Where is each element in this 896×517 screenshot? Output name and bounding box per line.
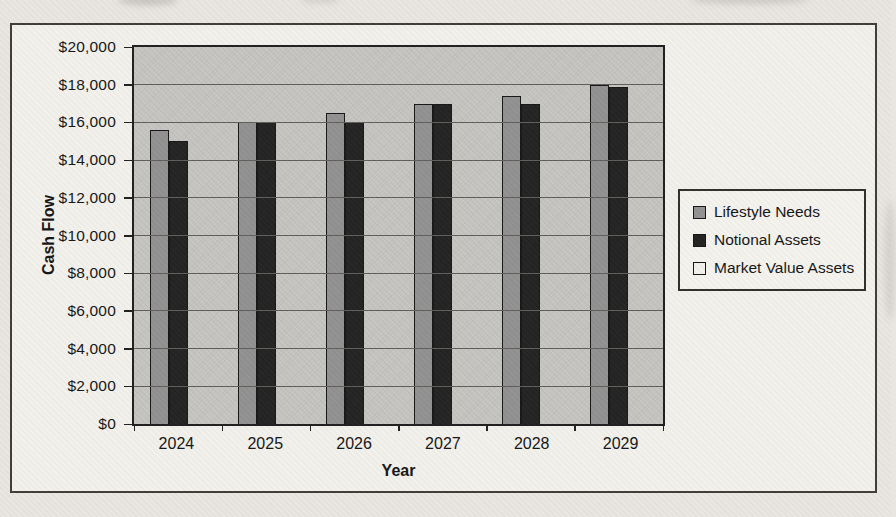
bar-lifestyle-needs — [150, 130, 169, 424]
y-tick-mark — [124, 235, 132, 237]
gridline — [134, 348, 663, 349]
legend-swatch — [693, 206, 706, 219]
y-tick-mark — [124, 84, 132, 86]
gridline — [134, 122, 663, 123]
bar-lifestyle-needs — [590, 85, 609, 424]
y-tick-label: $14,000 — [12, 151, 116, 169]
legend-entry-market-value-assets: Market Value Assets — [693, 259, 856, 277]
x-tick-label: 2025 — [221, 435, 310, 453]
scan-artifact — [690, 0, 810, 4]
x-tick-label: 2024 — [132, 435, 221, 453]
gridline — [134, 273, 663, 274]
gridline — [134, 197, 663, 198]
x-axis-title: Year — [132, 462, 665, 480]
bar-notional-assets — [169, 141, 188, 424]
scan-artifact — [884, 200, 896, 320]
y-tick-mark — [124, 47, 132, 49]
bar-notional-assets — [433, 104, 452, 424]
bar-notional-assets — [521, 104, 540, 424]
legend-swatch — [693, 262, 706, 275]
y-tick-label: $16,000 — [12, 113, 116, 131]
x-tick-label: 2028 — [487, 435, 576, 453]
gridline — [134, 310, 663, 311]
scan-artifact — [118, 0, 178, 5]
y-tick-mark — [124, 273, 132, 275]
y-tick-mark — [124, 386, 132, 388]
gridline — [134, 84, 663, 85]
plot-area — [132, 45, 665, 426]
x-tick-label: 2029 — [576, 435, 665, 453]
legend-entry-notional-assets: Notional Assets — [693, 231, 856, 249]
y-tick-mark — [124, 310, 132, 312]
x-tick-label: 2027 — [398, 435, 487, 453]
y-tick-label: $4,000 — [12, 340, 116, 358]
legend-swatch — [693, 234, 706, 247]
bar-lifestyle-needs — [502, 96, 521, 424]
y-tick-label: $0 — [12, 415, 116, 433]
y-tick-mark — [124, 348, 132, 350]
scan-artifact — [300, 0, 340, 3]
legend-label: Market Value Assets — [714, 259, 854, 277]
y-tick-label: $2,000 — [12, 377, 116, 395]
x-tick-mark — [574, 426, 576, 431]
y-tick-label: $8,000 — [12, 264, 116, 282]
y-tick-label: $20,000 — [12, 38, 116, 56]
chart-frame: Cash Flow 202420252026202720282029 Year … — [10, 23, 877, 493]
x-tick-mark — [222, 426, 224, 431]
y-tick-mark — [124, 160, 132, 162]
x-tick-mark — [398, 426, 400, 431]
legend-box: Lifestyle NeedsNotional AssetsMarket Val… — [678, 189, 866, 291]
x-tick-mark — [310, 426, 312, 431]
y-tick-label: $10,000 — [12, 227, 116, 245]
y-tick-mark — [124, 424, 132, 426]
legend-label: Notional Assets — [714, 231, 821, 249]
y-tick-mark — [124, 122, 132, 124]
x-tick-mark — [486, 426, 488, 431]
x-tick-label: 2026 — [310, 435, 399, 453]
legend-entry-lifestyle-needs: Lifestyle Needs — [693, 203, 856, 221]
x-axis-labels: 202420252026202720282029 — [132, 435, 665, 453]
gridline — [134, 235, 663, 236]
legend-label: Lifestyle Needs — [714, 203, 820, 221]
y-tick-label: $18,000 — [12, 76, 116, 94]
y-tick-label: $12,000 — [12, 189, 116, 207]
y-tick-label: $6,000 — [12, 302, 116, 320]
gridline — [134, 160, 663, 161]
bar-notional-assets — [609, 87, 628, 424]
bar-lifestyle-needs — [414, 104, 433, 424]
x-tick-mark — [134, 426, 136, 431]
gridline — [134, 386, 663, 387]
x-tick-mark — [663, 426, 665, 431]
y-tick-mark — [124, 197, 132, 199]
